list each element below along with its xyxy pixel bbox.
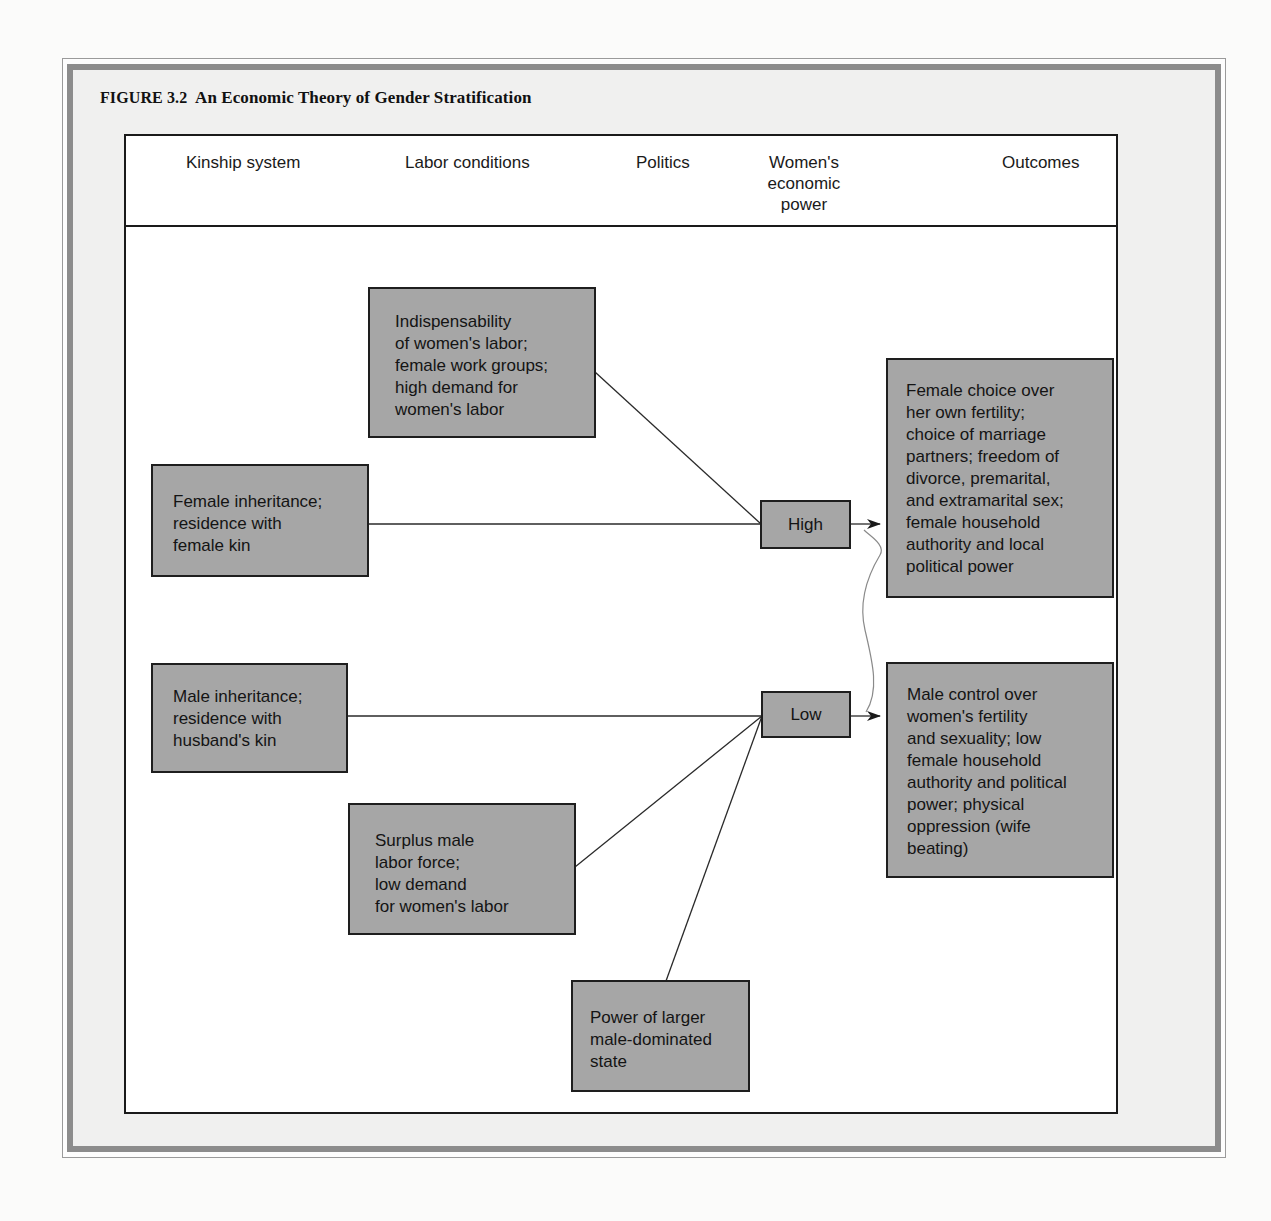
node-state-power-text: Power of larger male-dominated state bbox=[590, 1007, 712, 1073]
edge-state-to-low bbox=[666, 716, 762, 981]
node-male-control: Male control over women's fertility and … bbox=[886, 662, 1114, 878]
node-male-control-text: Male control over women's fertility and … bbox=[907, 684, 1067, 860]
node-female-choice: Female choice over her own fertility; ch… bbox=[886, 358, 1114, 598]
edge-surplus-to-low bbox=[575, 716, 762, 867]
wavy-connector-low-high bbox=[863, 530, 882, 712]
node-high: High bbox=[760, 500, 851, 549]
node-low-text: Low bbox=[790, 704, 821, 726]
edge-indispensability-to-high bbox=[595, 372, 761, 524]
node-male-inheritance-text: Male inheritance; residence with husband… bbox=[173, 686, 302, 752]
node-indispensability-text: Indispensability of women's labor; femal… bbox=[395, 311, 548, 421]
node-indispensability: Indispensability of women's labor; femal… bbox=[368, 287, 596, 438]
node-low: Low bbox=[761, 691, 851, 738]
node-female-inheritance-text: Female inheritance; residence with femal… bbox=[173, 491, 322, 557]
node-high-text: High bbox=[788, 514, 823, 536]
node-female-choice-text: Female choice over her own fertility; ch… bbox=[906, 380, 1064, 578]
node-female-inheritance: Female inheritance; residence with femal… bbox=[151, 464, 369, 577]
node-state-power: Power of larger male-dominated state bbox=[571, 980, 750, 1092]
node-surplus-male-labor: Surplus male labor force; low demand for… bbox=[348, 803, 576, 935]
node-male-inheritance: Male inheritance; residence with husband… bbox=[151, 663, 348, 773]
node-surplus-male-labor-text: Surplus male labor force; low demand for… bbox=[375, 830, 509, 918]
